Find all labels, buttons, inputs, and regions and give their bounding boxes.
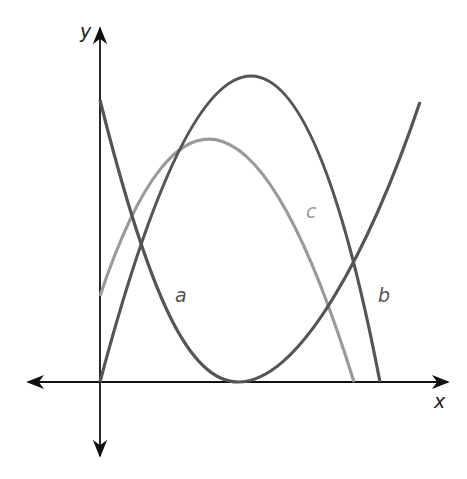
chart: y x a b c: [0, 0, 467, 479]
curve-c: [100, 139, 354, 382]
x-axis-label: x: [433, 390, 446, 412]
y-axis-label: y: [79, 20, 92, 42]
curve-b-label: b: [378, 284, 390, 306]
curve-a-label: a: [175, 284, 187, 306]
curve-c-label: c: [306, 200, 317, 222]
